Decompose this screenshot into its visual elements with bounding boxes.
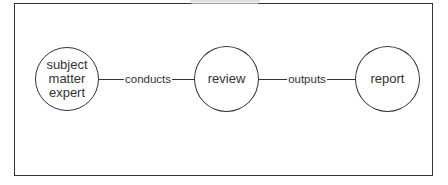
node-sme-line-2: matter xyxy=(46,72,87,86)
node-subject-matter-expert: subject matter expert xyxy=(35,47,99,111)
edge-label-conducts: conducts xyxy=(124,73,172,85)
node-report: report xyxy=(355,46,420,112)
node-sme-line-3: expert xyxy=(46,86,87,100)
node-report-label: report xyxy=(371,72,405,86)
node-review: review xyxy=(194,46,259,112)
node-review-label: review xyxy=(208,72,246,86)
edge-label-outputs: outputs xyxy=(287,73,327,85)
node-sme-line-1: subject xyxy=(46,58,87,72)
top-shadow xyxy=(190,0,260,5)
